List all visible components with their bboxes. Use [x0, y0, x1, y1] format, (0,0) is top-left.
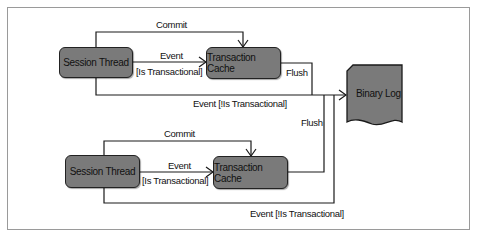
event-label-bottom: Event: [168, 160, 191, 171]
transaction-cache-node-bottom: Transaction Cache: [213, 156, 288, 189]
event-not-transactional-label-top: Event [!Is Transactional]: [193, 98, 287, 109]
binary-log-label: Binary Log: [356, 88, 401, 99]
transaction-cache-label: Transaction Cache: [214, 162, 287, 184]
flush-label-top: Flush: [286, 67, 308, 78]
commit-label-top: Commit: [156, 19, 187, 30]
session-thread-label: Session Thread: [63, 57, 129, 68]
session-thread-label: Session Thread: [70, 166, 136, 177]
flush-label-bottom: Flush: [301, 117, 323, 128]
connector-lines: [0, 0, 477, 238]
event-not-transactional-label-bottom: Event [!Is Transactional]: [250, 208, 344, 219]
commit-label-bottom: Commit: [164, 128, 195, 139]
session-thread-node-bottom: Session Thread: [65, 155, 140, 188]
event-label-top: Event: [160, 50, 183, 61]
is-transactional-label-top: [Is Transactional]: [136, 66, 202, 77]
is-transactional-label-bottom: [Is Transactional]: [142, 175, 208, 186]
transaction-cache-node-top: Transaction Cache: [206, 47, 281, 79]
session-thread-node-top: Session Thread: [59, 47, 133, 78]
transaction-cache-label: Transaction Cache: [207, 52, 280, 74]
